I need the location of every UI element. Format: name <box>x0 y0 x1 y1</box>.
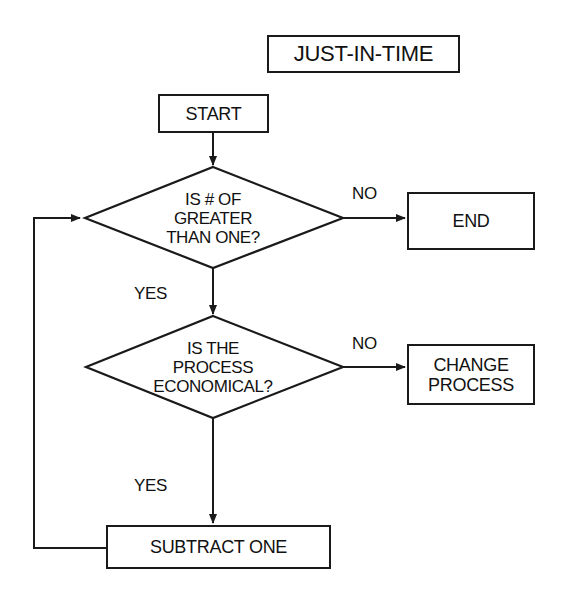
decision2-line1: IS THE <box>133 339 293 358</box>
decision1-line3: THAN ONE? <box>133 228 293 247</box>
decision2-text: IS THE PROCESS ECONOMICAL? <box>133 339 293 396</box>
flowchart-connectors <box>0 0 564 597</box>
end-label: END <box>452 211 489 231</box>
decision1-no-label: NO <box>352 184 377 203</box>
change-process-line1: CHANGE <box>433 355 508 375</box>
decision1-text: IS # OF GREATER THAN ONE? <box>133 190 293 247</box>
decision2-line3: ECONOMICAL? <box>133 377 293 396</box>
decision2-no-label: NO <box>352 334 377 353</box>
change-process-line2: PROCESS <box>428 375 514 395</box>
subtract-one-node: SUBTRACT ONE <box>106 525 331 569</box>
decision2-yes-label: YES <box>134 476 167 495</box>
decision1-line2: GREATER <box>133 209 293 228</box>
end-node: END <box>407 192 535 250</box>
start-label: START <box>186 104 242 124</box>
start-node: START <box>158 94 269 133</box>
subtract-one-label: SUBTRACT ONE <box>150 537 287 557</box>
title-text: JUST-IN-TIME <box>294 41 433 67</box>
arrow-loop-back-to-decision1 <box>34 218 106 548</box>
decision1-line1: IS # OF <box>133 190 293 209</box>
title-box: JUST-IN-TIME <box>267 35 460 73</box>
decision1-yes-label: YES <box>134 284 167 303</box>
decision2-line2: PROCESS <box>133 358 293 377</box>
change-process-node: CHANGE PROCESS <box>407 344 535 405</box>
